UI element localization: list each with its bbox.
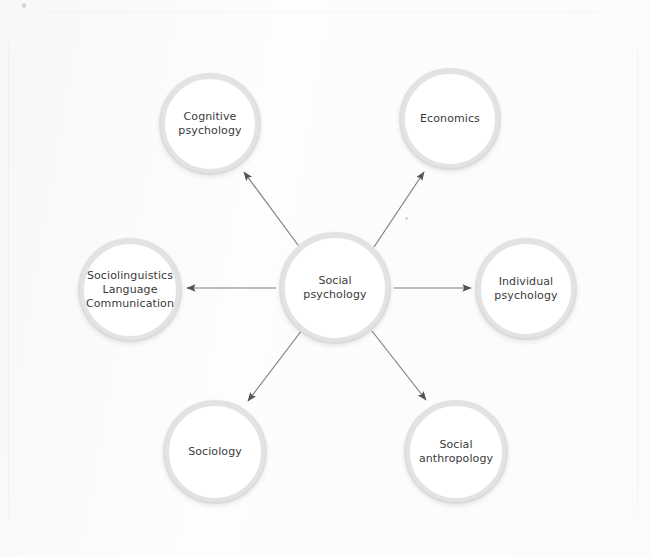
edge-to-social-anthropology (372, 331, 426, 400)
node-cognitive-psychology[interactable]: Cognitive psychology (159, 73, 261, 175)
node-ring-social-anthropology (404, 400, 508, 504)
node-social-psychology[interactable]: Social psychology (279, 232, 391, 344)
diagram-canvas: Social psychologyCognitive psychologyEco… (0, 0, 650, 557)
edge-to-sociology (248, 330, 302, 401)
node-sociolinguistics[interactable]: Sociolinguistics Language Communication (78, 238, 182, 342)
node-economics[interactable]: Economics (399, 68, 501, 170)
node-ring-individual-psychology (475, 238, 577, 340)
node-individual-psychology[interactable]: Individual psychology (475, 238, 577, 340)
node-ring-economics (399, 68, 501, 170)
node-ring-sociolinguistics (78, 238, 182, 342)
node-social-anthropology[interactable]: Social anthropology (404, 400, 508, 504)
node-ring-sociology (163, 400, 267, 504)
node-sociology[interactable]: Sociology (163, 400, 267, 504)
node-ring-social-psychology (279, 232, 391, 344)
edge-to-economics (374, 172, 424, 247)
edge-to-cognitive-psychology (244, 172, 301, 249)
node-ring-cognitive-psychology (159, 73, 261, 175)
